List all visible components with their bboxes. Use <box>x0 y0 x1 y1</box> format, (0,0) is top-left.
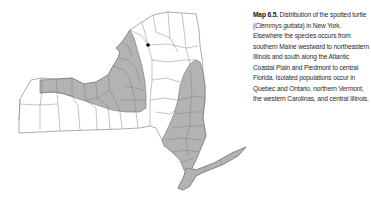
figure-caption: Map 6.5. Distribution of the spotted tur… <box>253 10 370 105</box>
distribution-map <box>0 0 250 199</box>
isolated-record-point <box>146 43 150 47</box>
caption-text-2: ) in New York. Elsewhere the species occ… <box>253 22 369 104</box>
figure-label: Map 6.5. <box>253 11 278 19</box>
scientific-name: Clemmys guttata <box>255 22 302 30</box>
